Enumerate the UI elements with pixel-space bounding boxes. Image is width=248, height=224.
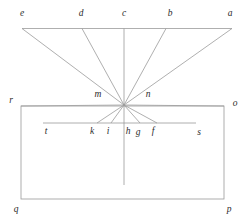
- point-label-b: b: [168, 9, 173, 19]
- point-label-g: g: [136, 128, 141, 138]
- lines-layer: [21, 29, 232, 200]
- ray-to-k: [97, 105, 124, 123]
- point-label-e: e: [20, 9, 24, 19]
- rect-r-o-p-q: [21, 106, 224, 199]
- point-label-q: q: [14, 205, 19, 215]
- point-label-n: n: [146, 90, 151, 100]
- ray-to-i: [111, 105, 124, 123]
- point-label-o: o: [233, 99, 238, 109]
- point-label-d: d: [79, 9, 84, 19]
- point-label-c: c: [122, 9, 126, 19]
- point-label-r: r: [9, 96, 13, 106]
- geometry-figure: edcbamnrotkihgfsqp: [0, 0, 248, 224]
- point-label-f: f: [152, 127, 155, 137]
- point-label-a: a: [228, 9, 233, 19]
- ray-to-e: [22, 29, 124, 106]
- point-label-h: h: [126, 127, 131, 137]
- ray-to-f: [124, 105, 157, 123]
- point-label-m: m: [95, 90, 102, 100]
- point-label-k: k: [90, 127, 94, 137]
- ray-to-d: [82, 29, 124, 106]
- ray-to-a: [124, 29, 232, 106]
- figure-canvas: [0, 0, 248, 224]
- point-label-s: s: [197, 128, 201, 138]
- point-label-p: p: [227, 205, 232, 215]
- ray-to-g: [124, 105, 140, 123]
- point-label-i: i: [107, 127, 110, 137]
- point-label-t: t: [45, 127, 48, 137]
